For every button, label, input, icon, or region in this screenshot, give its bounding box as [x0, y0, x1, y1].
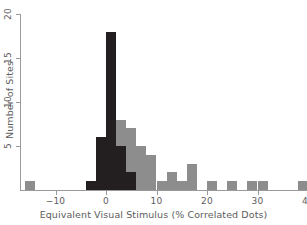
y-tick: [16, 14, 20, 15]
histogram-bar: [207, 181, 217, 190]
histogram-bar: [106, 32, 116, 190]
histogram-bar: [167, 172, 177, 190]
x-tick: [56, 191, 57, 195]
x-tick-label: 20: [201, 196, 213, 206]
x-axis-title: Equivalent Visual Stimulus (% Correlated…: [40, 209, 268, 220]
histogram-bar: [25, 181, 35, 190]
histogram-bar: [177, 181, 187, 190]
y-tick-label: 20: [3, 8, 13, 20]
histogram-bar: [157, 181, 167, 190]
y-axis-title: Number of Sites: [4, 61, 15, 139]
plot-area: −100102030405101520: [0, 0, 307, 225]
histogram-bar: [187, 164, 197, 190]
x-tick: [207, 191, 208, 195]
x-axis-line: [20, 190, 307, 191]
histogram-bar: [136, 146, 146, 190]
histogram-bar: [96, 137, 106, 190]
x-tick-label: 30: [252, 196, 264, 206]
y-tick: [16, 102, 20, 103]
x-tick: [106, 191, 107, 195]
x-tick-label: 0: [103, 196, 109, 206]
x-tick-label: 40: [302, 196, 307, 206]
x-tick: [157, 191, 158, 195]
y-tick: [16, 146, 20, 147]
histogram-bar: [116, 146, 126, 190]
histogram-bar: [126, 172, 136, 190]
histogram-bar: [247, 181, 257, 190]
histogram-bar: [146, 155, 156, 190]
histogram-bar: [298, 181, 307, 190]
histogram-bar: [86, 181, 96, 190]
histogram-bar: [258, 181, 268, 190]
y-axis-line: [20, 14, 21, 190]
y-tick-label: 5: [3, 143, 13, 149]
x-tick-label: 10: [151, 196, 163, 206]
histogram-figure: −100102030405101520 Number of Sites Equi…: [0, 0, 307, 225]
y-tick: [16, 58, 20, 59]
x-tick: [258, 191, 259, 195]
histogram-bar: [227, 181, 237, 190]
x-tick-label: −10: [46, 196, 66, 206]
